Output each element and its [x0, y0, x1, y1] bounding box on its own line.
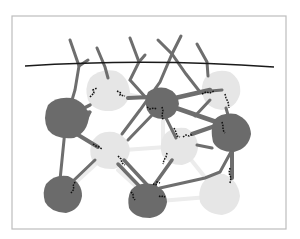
network-diagram [0, 0, 300, 239]
dark-node [45, 98, 89, 139]
